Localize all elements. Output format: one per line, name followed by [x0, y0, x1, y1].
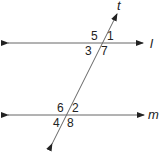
angle-1: 1 [107, 29, 114, 43]
angle-5: 5 [91, 29, 98, 43]
label-m: m [148, 107, 159, 122]
angle-3: 3 [85, 44, 92, 58]
angle-8: 8 [67, 116, 74, 130]
angle-2: 2 [72, 101, 79, 115]
label-l: l [150, 36, 154, 51]
angle-6: 6 [57, 101, 64, 115]
diagram-canvas: t l m 5 1 3 7 6 2 4 8 [0, 0, 166, 154]
angle-4: 4 [53, 116, 60, 130]
angle-7: 7 [101, 44, 108, 58]
label-t: t [117, 0, 122, 13]
